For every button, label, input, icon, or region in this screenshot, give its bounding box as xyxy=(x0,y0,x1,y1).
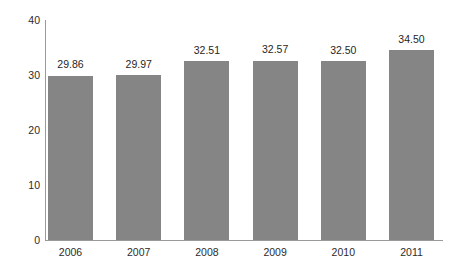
bar-rect[interactable] xyxy=(253,61,298,240)
bar-item[interactable]: 29.97 xyxy=(116,75,161,240)
bar-series: 29.86200629.97200732.51200832.57200932.5… xyxy=(0,0,459,270)
x-axis-category-label: 2009 xyxy=(247,247,304,258)
x-axis-category-label: 2006 xyxy=(42,247,99,258)
bar-value-label: 32.50 xyxy=(315,45,372,56)
bar-rect[interactable] xyxy=(321,61,366,240)
bar-rect[interactable] xyxy=(389,50,434,240)
bar-item[interactable]: 32.57 xyxy=(253,61,298,240)
bar-value-label: 32.57 xyxy=(247,44,304,55)
bar-rect[interactable] xyxy=(184,61,229,240)
bar-value-label: 34.50 xyxy=(383,34,440,45)
bar-value-label: 29.86 xyxy=(42,59,99,70)
x-axis-category-label: 2011 xyxy=(383,247,440,258)
bar-rect[interactable] xyxy=(116,75,161,240)
bar-item[interactable]: 32.51 xyxy=(184,61,229,240)
bar-item[interactable]: 29.86 xyxy=(48,76,93,240)
x-axis-category-label: 2007 xyxy=(110,247,167,258)
bar-rect[interactable] xyxy=(48,76,93,240)
bar-value-label: 32.51 xyxy=(178,45,235,56)
bar-item[interactable]: 32.50 xyxy=(321,61,366,240)
bar-item[interactable]: 34.50 xyxy=(389,50,434,240)
plot-area: 010203040 29.86200629.97200732.51200832.… xyxy=(0,0,459,270)
bar-chart: 010203040 29.86200629.97200732.51200832.… xyxy=(0,0,459,270)
x-axis-category-label: 2008 xyxy=(178,247,235,258)
x-axis-category-label: 2010 xyxy=(315,247,372,258)
bar-value-label: 29.97 xyxy=(110,59,167,70)
